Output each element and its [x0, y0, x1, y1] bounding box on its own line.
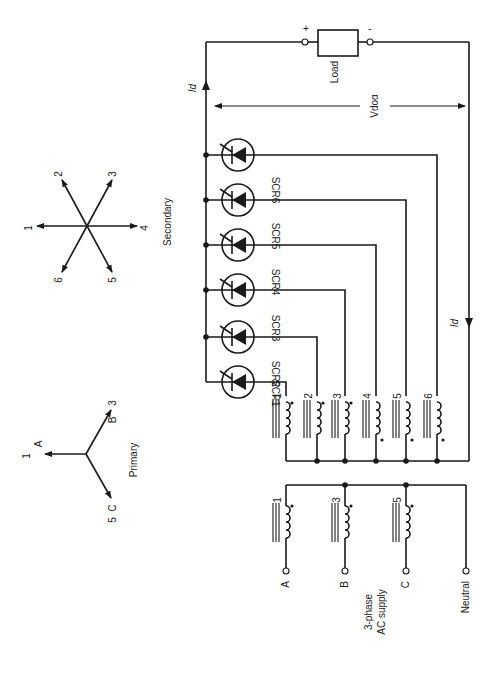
terminal-c [403, 568, 409, 574]
secondary-winding-6 [424, 400, 445, 461]
sec-winding-label-3: 3 [332, 393, 343, 399]
phasor-b-arrow [86, 410, 111, 454]
terminal-b-label: B [339, 581, 350, 588]
phasor-3-arrow [87, 180, 112, 226]
terminal-neutral-label: Neutral [460, 581, 471, 613]
secondary-winding-3 [332, 400, 353, 461]
supply-label-line1: 3-phase [363, 593, 374, 630]
pri-winding-label-5: 5 [392, 497, 403, 503]
sec-winding-label-4: 4 [362, 393, 373, 399]
terminal-a [283, 568, 289, 574]
terminal-c-label: C [400, 581, 411, 588]
primary-label: Primary [128, 443, 139, 477]
secondary-winding-5 [393, 400, 414, 461]
load-plus-label: + [303, 23, 309, 34]
secondary-windings [273, 400, 445, 464]
load-box [318, 30, 358, 56]
secondary-label: Secondary [162, 198, 173, 246]
sec-winding-label-6: 6 [423, 393, 434, 399]
load-label: Load [329, 61, 340, 83]
secondary-winding-1 [273, 400, 294, 461]
phasor-label-1: 1 [21, 453, 32, 459]
load-minus-label: - [368, 23, 371, 34]
six-phase-half-wave-rectifier-diagram: 1 A 3 B C 5 Primary 1 2 3 4 5 6 Secondar… [0, 0, 495, 681]
terminal-a-label: A [280, 581, 291, 588]
current-label-top: Id [187, 83, 198, 92]
primary-phasor: 1 A 3 B C [21, 400, 118, 512]
secondary-phasor: 1 2 3 4 5 6 [23, 171, 150, 283]
sec-phasor-label-2: 2 [53, 171, 64, 177]
terminal-neutral [463, 568, 469, 574]
phasor-label-a: A [33, 440, 44, 447]
load-plus-terminal [302, 39, 308, 45]
current-arrow-right [465, 318, 473, 328]
supply-terminals [283, 568, 469, 574]
phasor-6-arrow [62, 226, 87, 272]
sec-winding-label-5: 5 [392, 393, 403, 399]
current-label-right: Id [449, 318, 460, 327]
pri-winding-label-3: 3 [331, 497, 342, 503]
phasor-label-5: 5 [107, 517, 118, 523]
sec-winding-label-1: 1 [272, 393, 283, 399]
sec-phasor-label-1: 1 [23, 225, 34, 231]
phasor-5-arrow [87, 226, 112, 272]
secondary-winding-4 [363, 400, 384, 461]
pri-winding-label-1: 1 [272, 497, 283, 503]
phasor-label-c: C [107, 504, 118, 511]
load-minus-terminal [367, 39, 373, 45]
sec-phasor-label-3: 3 [107, 171, 118, 177]
terminal-b [342, 568, 348, 574]
sec-phasor-label-6: 6 [53, 277, 64, 283]
scr3-label: SCR3 [270, 315, 281, 342]
sec-phasor-label-4: 4 [139, 225, 150, 231]
phasor-label-3: 3 [107, 400, 118, 406]
scr6-label: SCR6 [270, 177, 281, 204]
sec-winding-label-2: 2 [303, 393, 314, 399]
voltage-label: Vdoα [369, 94, 380, 118]
current-arrow-top [202, 80, 210, 90]
scr4-label: SCR4 [270, 269, 281, 296]
secondary-winding-2 [304, 400, 325, 461]
phasor-label-b: B [107, 416, 118, 423]
phasor-c-arrow [86, 454, 111, 498]
supply-label-line2: AC supply [376, 589, 387, 635]
sec-phasor-label-5: 5 [107, 277, 118, 283]
primary-windings [273, 482, 466, 568]
phasor-2-arrow [62, 180, 87, 226]
scr5-label: SCR5 [270, 223, 281, 250]
